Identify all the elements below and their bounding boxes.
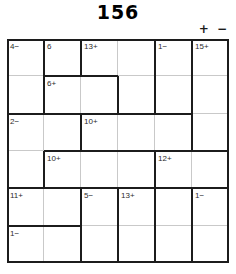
grid-cell-r3c1[interactable]: [7, 114, 44, 151]
grid-cell-r4c4[interactable]: [118, 151, 155, 188]
grid-cell-r1c3[interactable]: [81, 39, 118, 76]
grid-cell-r4c5[interactable]: [155, 151, 192, 188]
cage-boundary-horizontal: [81, 75, 118, 77]
grid-cell-r5c6[interactable]: [192, 188, 229, 225]
cage-boundary-horizontal: [192, 187, 229, 189]
grid-cell-r2c3[interactable]: [81, 76, 118, 113]
cage-boundary-horizontal: [118, 187, 155, 189]
cage-boundary-vertical: [191, 76, 193, 113]
grid-cell-r6c3[interactable]: [81, 226, 118, 263]
grid-cell-r3c6[interactable]: [192, 114, 229, 151]
cage-boundary-vertical: [80, 114, 82, 151]
cage-boundary-horizontal: [155, 187, 192, 189]
grid-cell-r5c2[interactable]: [44, 188, 81, 225]
cage-boundary-vertical: [117, 226, 119, 263]
grid-cell-r6c2[interactable]: [44, 226, 81, 263]
puzzle-grid[interactable]: 4−613+1−15+6+2−10+10+12+11+5−13+1−1−: [7, 39, 229, 263]
grid-cell-r3c4[interactable]: [118, 114, 155, 151]
cage-boundary-vertical: [191, 39, 193, 76]
cage-boundary-horizontal: [81, 187, 118, 189]
cage-boundary-horizontal: [44, 75, 81, 77]
kenken-puzzle: 156 + − 4−613+1−15+6+2−10+10+12+11+5−13+…: [0, 0, 236, 274]
grid-cell-r4c6[interactable]: [192, 151, 229, 188]
grid-cell-r3c5[interactable]: [155, 114, 192, 151]
cage-boundary-horizontal: [44, 187, 81, 189]
grid-cell-r4c3[interactable]: [81, 151, 118, 188]
grid-cell-r6c1[interactable]: [7, 226, 44, 263]
cage-boundary-vertical: [43, 39, 45, 76]
grid-cell-r3c2[interactable]: [44, 114, 81, 151]
cage-boundary-vertical: [191, 188, 193, 225]
cage-boundary-horizontal: [118, 150, 155, 152]
cage-boundary-vertical: [154, 76, 156, 113]
cage-boundary-horizontal: [81, 150, 118, 152]
cage-boundary-vertical: [117, 188, 119, 225]
operator-legend: + −: [199, 22, 229, 36]
cage-boundary-vertical: [154, 151, 156, 188]
cage-boundary-vertical: [43, 151, 45, 188]
grid-cell-r5c4[interactable]: [118, 188, 155, 225]
cage-boundary-vertical: [80, 39, 82, 76]
grid-cell-r1c1[interactable]: [7, 39, 44, 76]
cage-boundary-vertical: [191, 226, 193, 263]
grid-cell-r1c2[interactable]: [44, 39, 81, 76]
grid-cell-r2c1[interactable]: [7, 76, 44, 113]
grid-cell-r5c3[interactable]: [81, 188, 118, 225]
cage-boundary-horizontal: [155, 150, 192, 152]
grid-cell-r6c6[interactable]: [192, 226, 229, 263]
cage-boundary-horizontal: [44, 225, 81, 227]
grid-cell-r2c4[interactable]: [118, 76, 155, 113]
grid-cell-r1c4[interactable]: [118, 39, 155, 76]
grid-cell-r4c2[interactable]: [44, 151, 81, 188]
page-title: 156: [0, 1, 236, 23]
grid-cell-r2c5[interactable]: [155, 76, 192, 113]
grid-cell-r5c1[interactable]: [7, 188, 44, 225]
cage-boundary-vertical: [154, 39, 156, 76]
grid-cell-r3c3[interactable]: [81, 114, 118, 151]
cage-boundary-horizontal: [7, 225, 44, 227]
cage-boundary-vertical: [80, 226, 82, 263]
cage-boundary-vertical: [191, 114, 193, 151]
cage-boundary-vertical: [154, 188, 156, 225]
cage-boundary-horizontal: [44, 150, 81, 152]
grid-cell-r2c2[interactable]: [44, 76, 81, 113]
cage-boundary-horizontal: [44, 113, 81, 115]
cage-boundary-horizontal: [192, 150, 229, 152]
grid-cell-r1c5[interactable]: [155, 39, 192, 76]
cage-boundary-vertical: [43, 76, 45, 113]
cage-boundary-horizontal: [7, 187, 44, 189]
cage-boundary-horizontal: [7, 113, 44, 115]
cage-boundary-vertical: [80, 188, 82, 225]
cage-boundary-horizontal: [81, 113, 118, 115]
grid-cell-r4c1[interactable]: [7, 151, 44, 188]
cage-boundary-horizontal: [118, 113, 155, 115]
grid-cell-r2c6[interactable]: [192, 76, 229, 113]
grid-cell-r6c5[interactable]: [155, 226, 192, 263]
grid-cell-r5c5[interactable]: [155, 188, 192, 225]
grid-cell-r6c4[interactable]: [118, 226, 155, 263]
cage-boundary-vertical: [117, 76, 119, 113]
cage-boundary-horizontal: [155, 113, 192, 115]
grid-cell-r1c6[interactable]: [192, 39, 229, 76]
puzzle-grid-wrapper: 4−613+1−15+6+2−10+10+12+11+5−13+1−1−: [7, 39, 229, 263]
cage-boundary-vertical: [154, 226, 156, 263]
